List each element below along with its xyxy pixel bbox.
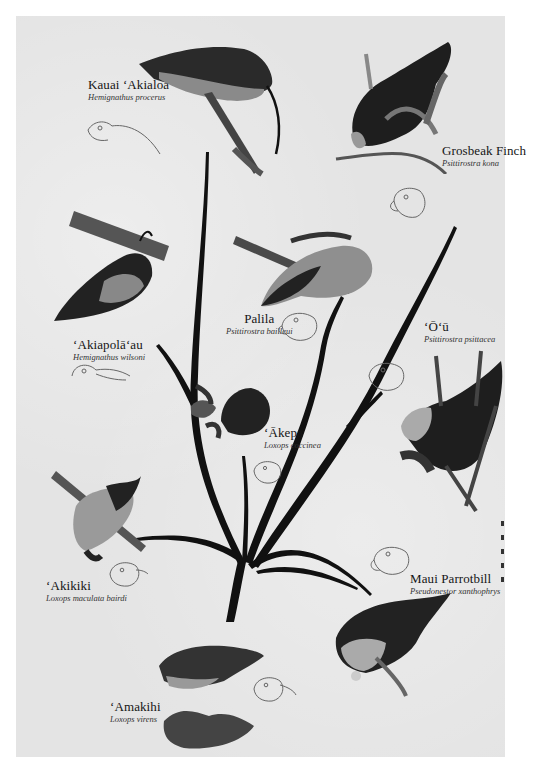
akepa-illustration — [186, 366, 276, 446]
scientific-name: Loxops maculata bairdi — [46, 594, 127, 603]
scientific-name: Psittirostra psittacea — [424, 335, 495, 344]
label-akepa: ʻĀkepa Loxops coccinea — [264, 426, 321, 450]
scientific-name: Loxops coccinea — [264, 441, 321, 450]
common-name: Kauai ʻAkialoa — [88, 78, 169, 91]
ou-illustration — [386, 346, 516, 516]
common-name: Maui Parrotbill — [410, 572, 500, 585]
maui-parrotbill-illustration — [326, 588, 456, 698]
akikiki-head-sketch — [104, 556, 149, 591]
edge-marks — [499, 521, 505, 591]
palila-illustration — [231, 216, 381, 316]
kauai-akialoa-head-sketch — [84, 112, 164, 162]
scientific-name: Hemignathus procerus — [88, 93, 169, 102]
common-name: ʻAmakihi — [110, 700, 161, 713]
label-ou: ʻŌʻū Psittirostra psittacea — [424, 320, 495, 344]
scientific-name: Loxops virens — [110, 715, 161, 724]
amakihi-head-sketch — [248, 671, 298, 706]
grosbeak-finch-head-sketch — [386, 181, 431, 221]
palila-head-sketch — [274, 306, 324, 346]
label-kauai-akialoa: Kauai ʻAkialoa Hemignathus procerus — [88, 78, 169, 102]
label-amakihi: ʻAmakihi Loxops virens — [110, 700, 161, 724]
akiapolaau-head-sketch — [66, 356, 136, 396]
scientific-name: Psittirostra kona — [442, 159, 526, 168]
common-name: ʻAkiapolāʻau — [73, 338, 145, 351]
akepa-head-sketch — [248, 456, 288, 486]
poster: Kauai ʻAkialoa Hemignathus procerus Gros… — [16, 16, 505, 757]
label-grosbeak-finch: Grosbeak Finch Psittirostra kona — [442, 144, 526, 168]
common-name: ʻĀkepa — [264, 426, 321, 439]
akiapolaau-illustration — [44, 201, 174, 331]
common-name: ʻŌʻū — [424, 320, 495, 333]
maui-parrotbill-head-sketch — [366, 540, 416, 580]
common-name: Grosbeak Finch — [442, 144, 526, 157]
